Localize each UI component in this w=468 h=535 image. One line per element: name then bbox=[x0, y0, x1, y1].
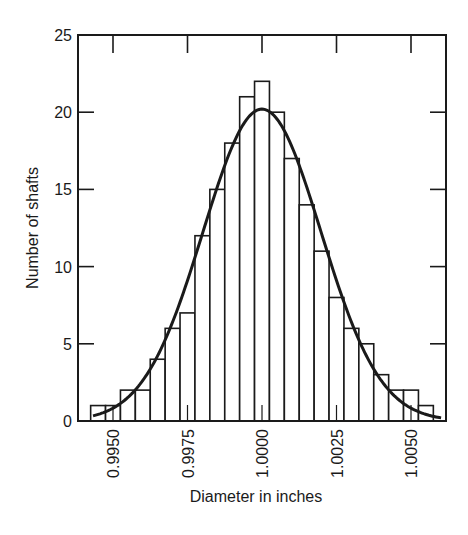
y-tick-label: 20 bbox=[54, 104, 72, 121]
y-tick-label: 5 bbox=[63, 336, 72, 353]
histogram-bar bbox=[135, 390, 150, 421]
histogram-bar bbox=[329, 297, 344, 421]
y-tick-label: 25 bbox=[54, 27, 72, 44]
histogram-bar bbox=[269, 112, 284, 421]
histogram-bar bbox=[150, 359, 165, 421]
histogram-bar bbox=[120, 390, 135, 421]
histogram-bar bbox=[195, 236, 210, 421]
x-axis-label: Diameter in inches bbox=[190, 488, 323, 505]
histogram-bar bbox=[180, 313, 195, 421]
histogram-bar bbox=[299, 205, 314, 421]
histogram-bars bbox=[91, 81, 434, 421]
x-tick-label: 0.9950 bbox=[105, 429, 122, 478]
histogram-chart: 0510152025 0.99500.99751.00001.00251.005… bbox=[0, 0, 468, 535]
histogram-bar bbox=[210, 189, 225, 421]
histogram-bar bbox=[314, 251, 329, 421]
histogram-bar bbox=[344, 328, 359, 421]
x-tick-label: 1.0000 bbox=[254, 429, 271, 478]
y-axis-label: Number of shafts bbox=[24, 167, 41, 289]
y-tick-label: 10 bbox=[54, 259, 72, 276]
histogram-bar bbox=[225, 143, 240, 421]
x-tick-label: 1.0050 bbox=[403, 429, 420, 478]
histogram-bar bbox=[389, 390, 404, 421]
x-tick-label: 0.9975 bbox=[180, 429, 197, 478]
y-tick-label: 15 bbox=[54, 181, 72, 198]
histogram-bar bbox=[240, 97, 255, 421]
x-tick-label: 1.0025 bbox=[329, 429, 346, 478]
histogram-bar bbox=[284, 159, 299, 421]
histogram-bar bbox=[255, 81, 270, 421]
y-tick-label: 0 bbox=[63, 413, 72, 430]
histogram-bar bbox=[165, 328, 180, 421]
